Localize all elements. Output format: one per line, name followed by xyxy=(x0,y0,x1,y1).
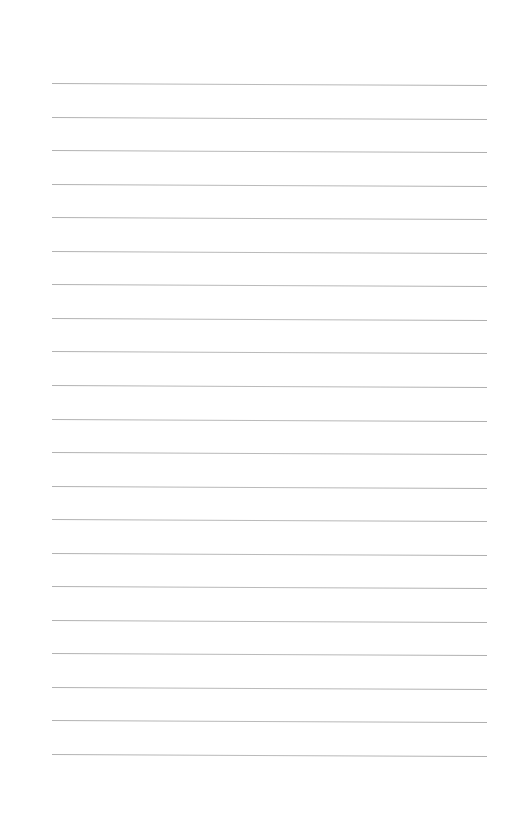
ruled-line xyxy=(52,83,487,86)
ruled-line xyxy=(52,620,487,623)
ruled-line xyxy=(52,519,487,522)
ruled-line xyxy=(52,687,487,690)
ruled-line xyxy=(52,419,487,422)
ruled-line xyxy=(52,385,487,388)
ruled-line xyxy=(52,318,487,321)
ruled-line xyxy=(52,486,487,489)
lined-notebook-page xyxy=(0,0,507,835)
ruled-line xyxy=(52,251,487,254)
ruled-line xyxy=(52,754,487,757)
ruled-line xyxy=(52,217,487,220)
ruled-line xyxy=(52,150,487,153)
ruled-line xyxy=(52,452,487,455)
ruled-line xyxy=(52,720,487,723)
ruled-line xyxy=(52,653,487,656)
ruled-line xyxy=(52,351,487,354)
ruled-line xyxy=(52,117,487,120)
ruled-line xyxy=(52,184,487,187)
ruled-line xyxy=(52,553,487,556)
ruled-line xyxy=(52,586,487,589)
ruled-line xyxy=(52,284,487,287)
